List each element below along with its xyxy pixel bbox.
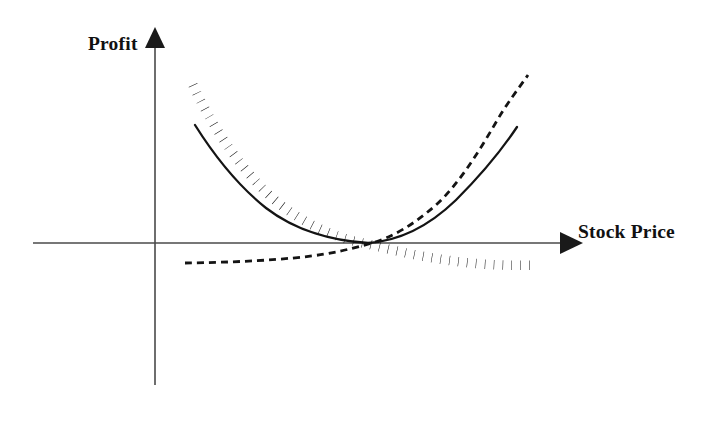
thin-solid-payoff-curve bbox=[195, 125, 517, 243]
thin-dashed-payoff-curve bbox=[185, 75, 528, 263]
thick-dotted-payoff-curve bbox=[193, 85, 538, 265]
y-axis-label: Profit bbox=[88, 33, 138, 54]
y-axis-arrowhead-icon bbox=[145, 27, 165, 48]
x-axis-label: Stock Price bbox=[578, 221, 675, 242]
profit-vs-stock-price-diagram: Profit Stock Price bbox=[0, 0, 718, 421]
